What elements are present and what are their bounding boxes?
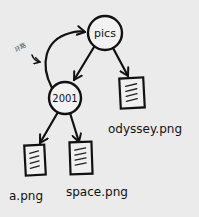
document-icon	[24, 145, 46, 176]
document-icon	[69, 142, 92, 175]
loop-edge	[46, 31, 85, 88]
file-odyssey: odyssey.png	[108, 77, 182, 136]
file-odyssey-label: odyssey.png	[108, 122, 182, 136]
file-a: a.png	[9, 145, 46, 203]
node-pics: pics	[88, 16, 122, 50]
node-pics-label: pics	[94, 27, 116, 40]
edge-2001-space	[70, 113, 79, 142]
node-2001-label: 2001	[52, 93, 77, 104]
edge-2001-a	[40, 112, 58, 143]
loop-annotation: 环路	[13, 41, 27, 53]
annotation-arrow	[32, 55, 40, 62]
document-icon	[119, 77, 145, 108]
edge-pics-2001	[74, 47, 94, 80]
file-space: space.png	[66, 142, 128, 199]
node-2001: 2001	[49, 82, 81, 114]
edge-pics-odyssey	[113, 48, 128, 76]
file-space-label: space.png	[66, 185, 128, 199]
directory-tree-diagram: 环路 pics 2001 odyssey.png a.p	[0, 0, 199, 217]
file-a-label: a.png	[9, 189, 43, 203]
